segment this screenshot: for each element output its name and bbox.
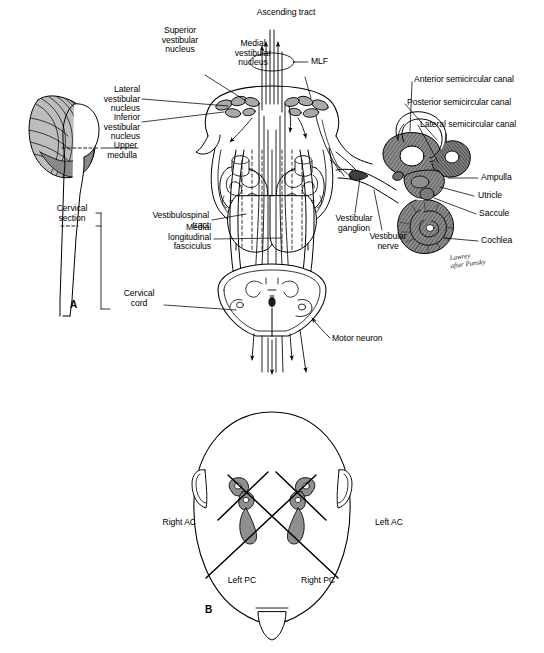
label-ampulla: Ampulla xyxy=(481,173,512,183)
brainstem-coronal xyxy=(196,30,372,374)
label-left-ac: Left AC xyxy=(375,518,403,528)
label-saccule: Saccule xyxy=(479,209,509,219)
label-ascending-tract: Ascending tract xyxy=(257,8,315,18)
label-inferior-vestibular-nucleus: Inferior vestibular nucleus xyxy=(104,113,140,142)
label-cervical-section: Cervical section xyxy=(57,204,88,223)
label-mlf: MLF xyxy=(311,57,328,67)
head-diagram xyxy=(192,412,352,640)
panel-letter-a: A xyxy=(70,299,77,310)
label-cervical-cord: Cervical cord xyxy=(124,289,155,308)
label-superior-vestibular-nucleus: Superior vestibular nucleus xyxy=(162,26,198,55)
label-medial-longitudinal-fasciculus: Medial longitudinal fasciculus xyxy=(168,223,211,252)
label-vestibular-nerve: Vestibular nerve xyxy=(369,232,406,251)
label-medial-vestibular-nucleus: Medial vestibular nucleus xyxy=(235,39,271,68)
label-cochlea: Cochlea xyxy=(481,236,512,246)
panel-letter-b: B xyxy=(205,604,212,615)
label-upper-medulla: Upper medulla xyxy=(107,141,137,160)
label-vestibular-ganglion: Vestibular ganglion xyxy=(335,214,372,233)
label-left-pc: Left PC xyxy=(228,576,256,586)
label-utricle: Utricle xyxy=(478,191,502,201)
label-lateral-vestibular-nucleus: Lateral vestibular nucleus xyxy=(104,85,140,114)
vestibular-nuclei-left xyxy=(214,95,260,118)
label-lateral-semicircular-canal: Lateral semicircular canal xyxy=(420,120,516,130)
label-right-pc: Right PC xyxy=(301,576,335,586)
label-anterior-semicircular-canal: Anterior semicircular canal xyxy=(414,75,514,85)
label-right-ac: Right AC xyxy=(162,518,196,528)
anatomical-figure: Ascending tract Superior vestibular nucl… xyxy=(0,0,544,653)
cervical-cord-section xyxy=(218,264,326,336)
label-motor-neuron: Motor neuron xyxy=(332,334,383,344)
label-posterior-semicircular-canal: Posterior semicircular canal xyxy=(407,98,511,108)
